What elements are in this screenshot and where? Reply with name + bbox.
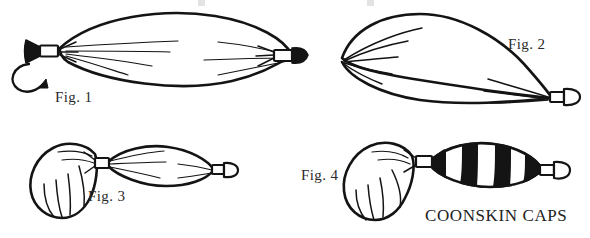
fig1-right-nozzle xyxy=(274,48,308,63)
fig2-nozzle-flare xyxy=(564,89,580,105)
fig4-fringe-4 xyxy=(392,170,401,207)
fig3-tail-crease-top2 xyxy=(62,159,94,163)
twist-arrow-head xyxy=(39,79,48,88)
fig3-end-nozzle xyxy=(212,163,238,177)
fig4-center-collar xyxy=(416,156,432,167)
figure-3-label: Fig. 3 xyxy=(88,188,125,205)
fig1-right-nozzle-collar xyxy=(274,50,292,61)
fig3-pinch-spoke-2 xyxy=(85,166,95,173)
fig1-spoke-5 xyxy=(256,55,274,56)
fig3-center-collar xyxy=(95,158,109,168)
fig4-end-collar xyxy=(540,165,554,175)
fig2-nozzle-collar xyxy=(550,92,564,102)
figure-1-label: Fig. 1 xyxy=(55,89,92,106)
fig4-fringe-2 xyxy=(368,185,374,220)
fig1-balloon-body xyxy=(60,13,292,86)
fig1-left-nozzle xyxy=(25,40,59,63)
fig4-stripe-gap-2 xyxy=(477,144,495,187)
figure-2-drawing xyxy=(342,14,580,105)
illustration-root: Fig. 1 Fig. 2 Fig. 3 Fig. 4 COONSKIN CAP… xyxy=(0,0,590,238)
fig1-left-nozzle-flare xyxy=(25,40,41,63)
fig4-end-flare xyxy=(554,162,570,179)
figure-2-label: Fig. 2 xyxy=(508,36,545,53)
fig1-crease-l1 xyxy=(66,41,178,47)
fig3-end-collar xyxy=(212,165,224,174)
figure-1-drawing xyxy=(13,13,308,92)
fig1-crease-r3 xyxy=(218,61,288,75)
fig3-fringe-2 xyxy=(56,180,62,217)
fig2-upper-lobe xyxy=(342,14,552,98)
fig1-right-nozzle-flare xyxy=(292,48,308,63)
fig4-tail-crease-1 xyxy=(372,151,408,158)
fig1-crease-l2 xyxy=(66,51,170,52)
fig3-body-crease-2 xyxy=(110,162,166,164)
fig2-lower-edge xyxy=(342,62,552,103)
fig4-fringe-3 xyxy=(380,178,383,217)
fig3-body-lobe xyxy=(107,146,215,186)
fig3-fringe-3 xyxy=(68,174,70,215)
fig1-left-nozzle-collar xyxy=(40,46,58,57)
fig4-tail-lobe xyxy=(344,143,414,220)
fig2-pleat-2 xyxy=(344,41,408,61)
fig3-fringe-4 xyxy=(79,166,84,206)
fig2-pleat-7 xyxy=(484,91,548,99)
fig2-nozzle xyxy=(550,89,580,105)
fig3-end-flare xyxy=(224,163,238,177)
figure-4-label: Fig. 4 xyxy=(301,167,338,184)
coonskin-caps-caption: COONSKIN CAPS xyxy=(425,206,567,226)
twist-direction-arrow xyxy=(13,64,48,92)
figure-3-drawing xyxy=(30,144,238,218)
fig3-body-crease-4 xyxy=(178,164,212,170)
twist-arrow-shaft xyxy=(13,64,43,92)
fig4-tail-crease-2 xyxy=(378,159,410,164)
